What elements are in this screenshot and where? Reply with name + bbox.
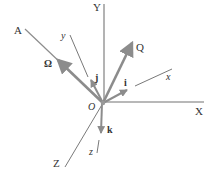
z-line (97, 140, 99, 153)
y-line (70, 35, 88, 77)
label-Q: Q (136, 42, 144, 53)
label-omega: Ω (44, 59, 52, 69)
k-vector (101, 103, 102, 133)
label-i: i (124, 78, 127, 88)
label-z: z (89, 147, 93, 157)
Q-vector (103, 43, 132, 103)
label-Y: Y (93, 2, 101, 13)
label-j: j (95, 73, 98, 83)
label-k: k (107, 125, 113, 135)
diagram-graphics (0, 0, 218, 176)
rotating-frame-diagram: Y X Z A y x z O Ω Q j i k (0, 0, 218, 176)
label-origin: O (88, 102, 95, 112)
origin-point (101, 101, 105, 105)
label-y: y (61, 31, 65, 41)
label-X: X (195, 106, 203, 117)
label-A: A (14, 25, 22, 36)
label-Z: Z (53, 158, 60, 169)
Z-axis (65, 103, 103, 167)
label-x: x (166, 72, 170, 82)
